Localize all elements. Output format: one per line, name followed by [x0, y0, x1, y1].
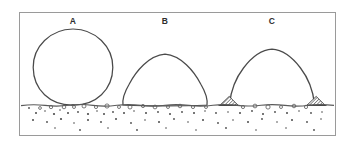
substrate-dot [79, 129, 81, 131]
substrate-dot [286, 112, 288, 114]
substrate-dot [320, 118, 322, 120]
substrate-dot [107, 127, 109, 129]
substrate-dot [173, 118, 175, 120]
substrate-dot [215, 112, 217, 114]
substrate-dot [130, 122, 132, 124]
substrate-dot [136, 129, 138, 131]
substrate-dot [247, 121, 249, 123]
substrate-dot [298, 110, 300, 112]
substrate-dot [217, 122, 219, 124]
substrate-dot [73, 122, 75, 124]
substrate-dot [251, 110, 253, 112]
substrate-dot [239, 112, 241, 114]
substrate-dot [44, 110, 46, 112]
shape-label-a: A [70, 16, 76, 26]
substrate-dot [227, 111, 229, 113]
figure-frame-border [20, 13, 336, 136]
substrate-dot [96, 110, 98, 112]
substrate-dot [274, 111, 276, 113]
substrate-dot [276, 121, 278, 123]
substrate-dot [313, 129, 315, 131]
substrate-dot [169, 113, 171, 115]
substrate-dot [204, 110, 206, 112]
substrate-dot [144, 119, 146, 121]
substrate-dot [115, 118, 117, 120]
substrate-dot [310, 112, 312, 114]
substrate-dot [202, 119, 204, 121]
substrate-dot [291, 119, 293, 121]
substrate-dot [187, 121, 189, 123]
substrate-dot [232, 119, 234, 121]
substrate-dot [60, 118, 62, 120]
substrate-dot [133, 110, 135, 112]
substrate-dot [195, 129, 197, 131]
substrate-dot [46, 121, 48, 123]
substrate-dot [261, 118, 263, 120]
substrate-dot [157, 111, 159, 113]
substrate-dot [306, 121, 308, 123]
substrate-dot [100, 121, 102, 123]
substrate-dot [35, 112, 37, 114]
substrate-dot [77, 111, 79, 113]
shape-label-b: B [162, 16, 168, 26]
figure-container: A B C [0, 0, 355, 148]
substrate-dot [67, 112, 69, 114]
substrate-dot [53, 113, 55, 115]
substrate-dot [32, 119, 34, 121]
substrate-dot [87, 113, 89, 115]
substrate-dot [145, 112, 147, 114]
substrate-dot [112, 111, 114, 113]
substrate-dot [87, 119, 89, 121]
substrate-dot [321, 111, 323, 113]
shape-label-c: C [269, 16, 275, 26]
substrate-dot [193, 112, 195, 114]
substrate-dot [103, 113, 105, 115]
substrate-dot [255, 129, 257, 131]
substrate-dot [28, 107, 30, 109]
substrate-dot [285, 127, 287, 129]
substrate-dot [165, 127, 167, 129]
diagram-canvas: A B C [0, 0, 355, 148]
substrate-dot [225, 127, 227, 129]
substrate-dot [59, 109, 61, 111]
substrate-dot [158, 121, 160, 123]
substrate-dot [54, 127, 56, 129]
substrate-dot [181, 111, 183, 113]
substrate-dot [123, 112, 125, 114]
substrate-dot [262, 113, 264, 115]
